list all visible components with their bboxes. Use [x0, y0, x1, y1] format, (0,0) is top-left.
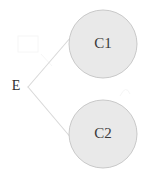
node-c1-label: C1 — [94, 35, 112, 51]
edge-e-to-c1 — [28, 37, 71, 87]
node-e[interactable]: E — [12, 78, 21, 93]
node-c2-label: C2 — [94, 125, 112, 141]
diagram-svg: C1 C2 E — [0, 0, 150, 174]
artifact-upper-left-diagonal-icon — [41, 54, 52, 66]
artifact-upper-left-icon — [18, 36, 38, 52]
diagram-canvas: C1 C2 E — [0, 0, 150, 174]
node-c2[interactable]: C2 — [69, 100, 137, 168]
node-c1[interactable]: C1 — [69, 10, 137, 78]
edge-e-to-c2 — [28, 87, 72, 139]
artifact-right-c2-icon — [120, 89, 130, 96]
node-e-label: E — [12, 78, 21, 93]
